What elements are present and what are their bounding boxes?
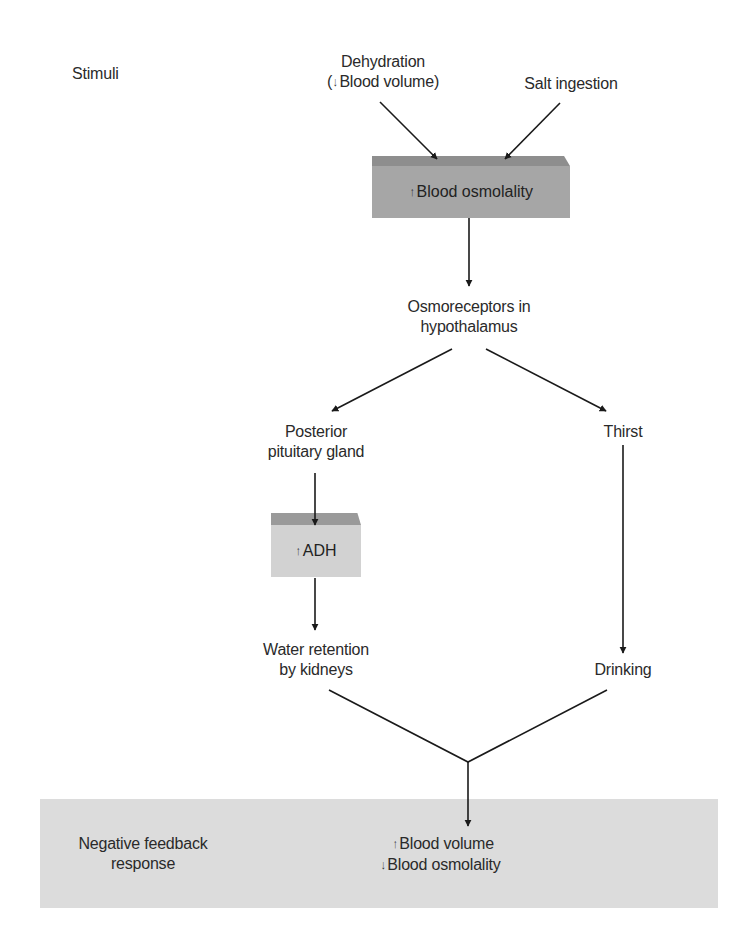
water-retention-line2: by kidneys: [244, 660, 388, 680]
osmoreceptors-node: Osmoreceptors in hypothalamus: [374, 297, 564, 337]
osmoreceptors-line1: Osmoreceptors in: [374, 297, 564, 317]
water-retention-node: Water retention by kidneys: [244, 640, 388, 680]
adh-label: ADH: [303, 542, 337, 560]
negative-feedback-line1: Negative feedback: [58, 834, 228, 854]
posterior-pituitary-line2: pituitary gland: [250, 442, 382, 462]
arrow-osmoreceptors-to-pituitary: [332, 349, 452, 411]
box-face: ↑ Blood osmolality: [372, 166, 570, 218]
stimuli-label: Stimuli: [72, 64, 119, 84]
blood-osmolality-box: ↑ Blood osmolality: [372, 156, 570, 218]
thirst-label: Thirst: [590, 422, 656, 442]
box-bevel: [372, 156, 570, 166]
down-arrow-icon: ↓: [333, 72, 337, 92]
salt-ingestion-label: Salt ingestion: [508, 74, 634, 94]
box-face: ↑ ADH: [271, 525, 361, 577]
paren: (: [327, 73, 332, 90]
blood-osmolality-text: Blood osmolality: [387, 856, 500, 873]
posterior-pituitary-line1: Posterior: [250, 422, 382, 442]
water-retention-line1: Water retention: [244, 640, 388, 660]
posterior-pituitary-node: Posterior pituitary gland: [250, 422, 382, 462]
negative-feedback-line2: response: [58, 854, 228, 874]
up-arrow-icon: ↑: [296, 543, 301, 558]
arrow-salt-to-osmolality: [505, 103, 560, 159]
adh-box: ↑ ADH: [271, 513, 361, 577]
blood-osmolality-label: Blood osmolality: [417, 183, 534, 201]
osmoreceptors-line2: hypothalamus: [374, 317, 564, 337]
drinking-label: Drinking: [580, 660, 666, 680]
up-arrow-icon: ↑: [410, 184, 415, 199]
blood-volume-increase: ↑Blood volume: [380, 834, 560, 855]
arrow-dehydration-to-osmolality: [380, 102, 437, 159]
dehydration-label: Dehydration: [288, 52, 478, 72]
up-arrow-icon: ↑: [393, 834, 397, 854]
blood-volume-text: Blood volume): [339, 73, 439, 90]
arrow-osmoreceptors-to-thirst: [486, 349, 606, 411]
box-bevel: [271, 513, 361, 525]
dehydration-node: Dehydration (↓Blood volume): [288, 52, 478, 93]
negative-feedback-label: Negative feedback response: [58, 834, 228, 874]
down-arrow-icon: ↓: [381, 855, 385, 875]
blood-volume-text: Blood volume: [399, 835, 494, 852]
convergence-lines: [329, 690, 607, 762]
blood-osmolality-decrease: ↓Blood osmolality: [380, 855, 560, 876]
response-node: ↑Blood volume ↓Blood osmolality: [380, 834, 560, 876]
blood-volume-decrease-label: (↓Blood volume): [288, 72, 478, 93]
